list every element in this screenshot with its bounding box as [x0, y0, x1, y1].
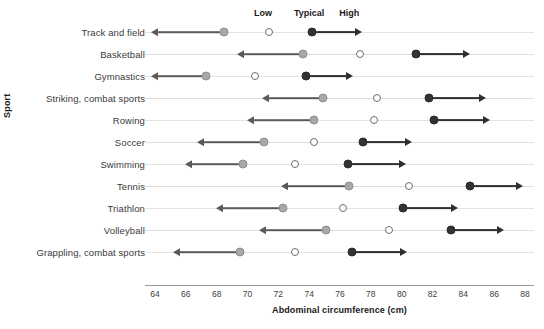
category-label: Track and field: [3, 27, 145, 38]
category-label: Tennis: [3, 181, 145, 192]
arrow-head-right-icon: [451, 204, 458, 212]
arrow-head-right-icon: [497, 226, 504, 234]
typical-marker: [291, 248, 299, 256]
low-marker: [260, 138, 269, 147]
x-tick-label: 70: [243, 289, 252, 299]
arrow-head-right-icon: [399, 160, 406, 168]
category-label: Triathlon: [3, 203, 145, 214]
high-marker: [430, 116, 439, 125]
low-marker: [322, 226, 331, 235]
high-direction-arrow: [451, 229, 497, 231]
arrow-head-left-icon: [185, 160, 192, 168]
category-label: Basketball: [3, 49, 145, 60]
x-axis-line: [145, 285, 534, 286]
x-tick-label: 80: [397, 289, 406, 299]
category-label: Gymnastics: [3, 71, 145, 82]
x-tick-label: 86: [489, 289, 498, 299]
typical-marker: [310, 138, 318, 146]
low-marker: [309, 116, 318, 125]
category-label: Volleyball: [3, 225, 145, 236]
high-marker: [425, 94, 434, 103]
legend-label-high: High: [339, 8, 359, 18]
arrow-head-right-icon: [479, 94, 486, 102]
low-direction-arrow: [204, 141, 264, 143]
arrow-head-right-icon: [516, 182, 523, 190]
high-direction-arrow: [403, 207, 451, 209]
x-tick-label: 64: [150, 289, 159, 299]
low-direction-arrow: [192, 163, 243, 165]
arrow-head-left-icon: [262, 94, 269, 102]
high-direction-arrow: [352, 251, 400, 253]
x-tick-label: 76: [335, 289, 344, 299]
low-direction-arrow: [180, 251, 240, 253]
plot-area: Abdominal circumference (cm) LowTypicalH…: [145, 0, 544, 285]
high-marker: [465, 182, 474, 191]
category-label: Grappling, combat sports: [3, 247, 145, 258]
high-marker: [411, 50, 420, 59]
arrow-head-left-icon: [237, 50, 244, 58]
abdominal-circumference-chart: Sport Track and fieldBasketballGymnastic…: [0, 0, 544, 329]
high-direction-arrow: [434, 119, 483, 121]
typical-marker: [339, 204, 347, 212]
high-marker: [447, 226, 456, 235]
arrow-head-right-icon: [405, 138, 412, 146]
typical-marker: [405, 182, 413, 190]
high-marker: [343, 160, 352, 169]
typical-marker: [291, 160, 299, 168]
x-tick-label: 72: [274, 289, 283, 299]
high-direction-arrow: [312, 31, 355, 33]
x-tick-label: 66: [181, 289, 190, 299]
low-direction-arrow: [288, 185, 350, 187]
category-label: Rowing: [3, 115, 145, 126]
arrow-head-left-icon: [281, 182, 288, 190]
low-direction-arrow: [244, 53, 303, 55]
arrow-head-left-icon: [173, 248, 180, 256]
typical-marker: [356, 50, 364, 58]
low-direction-arrow: [158, 31, 224, 33]
arrow-head-left-icon: [216, 204, 223, 212]
low-direction-arrow: [269, 97, 323, 99]
high-direction-arrow: [348, 163, 399, 165]
high-marker: [399, 204, 408, 213]
low-marker: [299, 50, 308, 59]
arrow-head-right-icon: [463, 50, 470, 58]
row-baseline: [145, 54, 534, 55]
typical-marker: [370, 116, 378, 124]
x-tick-label: 82: [428, 289, 437, 299]
arrow-head-right-icon: [400, 248, 407, 256]
high-direction-arrow: [470, 185, 516, 187]
high-marker: [348, 248, 357, 257]
category-label: Striking, combat sports: [3, 93, 145, 104]
low-marker: [235, 248, 244, 257]
arrow-head-right-icon: [346, 72, 353, 80]
low-direction-arrow: [266, 229, 326, 231]
arrow-head-right-icon: [483, 116, 490, 124]
high-direction-arrow: [306, 75, 346, 77]
low-marker: [238, 160, 247, 169]
arrow-head-left-icon: [247, 116, 254, 124]
low-marker: [201, 72, 210, 81]
low-marker: [319, 94, 328, 103]
low-direction-arrow: [254, 119, 314, 121]
high-direction-arrow: [363, 141, 405, 143]
arrow-head-right-icon: [355, 28, 362, 36]
low-direction-arrow: [158, 75, 206, 77]
legend-label-typical: Typical: [294, 8, 324, 18]
high-marker: [302, 72, 311, 81]
low-direction-arrow: [223, 207, 283, 209]
high-marker: [359, 138, 368, 147]
low-marker: [345, 182, 354, 191]
category-label-column: Track and fieldBasketballGymnasticsStrik…: [0, 0, 145, 329]
category-label: Swimming: [3, 159, 145, 170]
high-marker: [308, 28, 317, 37]
low-marker: [278, 204, 287, 213]
x-tick-label: 84: [459, 289, 468, 299]
category-label: Soccer: [3, 137, 145, 148]
typical-marker: [385, 226, 393, 234]
typical-marker: [265, 28, 273, 36]
arrow-head-left-icon: [151, 28, 158, 36]
arrow-head-left-icon: [151, 72, 158, 80]
arrow-head-left-icon: [259, 226, 266, 234]
arrow-head-left-icon: [197, 138, 204, 146]
x-tick-label: 68: [212, 289, 221, 299]
